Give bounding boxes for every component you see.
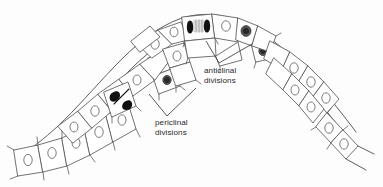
right-tail-cells — [311, 108, 374, 170]
label-periclinal-line2: divisions — [155, 128, 188, 138]
label-periclinal-line1: periclinal — [155, 118, 188, 128]
figure-canvas: anticlinal divisions periclinal division… — [0, 0, 383, 187]
label-anticlinal-line2: divisions — [204, 76, 236, 86]
cell-layer-drawing — [0, 0, 383, 187]
label-anticlinal-line1: anticlinal — [204, 66, 236, 76]
label-anticlinal-divisions: anticlinal divisions — [204, 66, 236, 87]
leader-line-periclinal — [149, 88, 196, 116]
label-periclinal-divisions: periclinal divisions — [155, 118, 188, 139]
